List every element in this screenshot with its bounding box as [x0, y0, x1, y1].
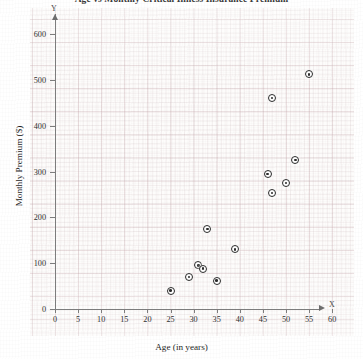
- y-tick: [50, 263, 55, 264]
- y-tick: [50, 126, 55, 127]
- x-tick-label: 15: [120, 315, 128, 324]
- y-axis-arrow-icon: [52, 14, 58, 20]
- x-tick: [240, 309, 241, 313]
- x-tick: [286, 309, 287, 313]
- x-axis-line: [55, 309, 320, 310]
- data-point: [213, 277, 221, 285]
- y-tick: [50, 172, 55, 173]
- x-tick-label: 30: [190, 315, 198, 324]
- x-tick: [101, 309, 102, 313]
- y-tick-label: 400: [22, 121, 46, 130]
- y-tick-label: 100: [22, 259, 46, 268]
- x-tick: [78, 309, 79, 313]
- x-tick-label: 50: [282, 315, 290, 324]
- x-tick: [55, 309, 56, 313]
- y-axis-title: Monthly Premium ($): [14, 91, 24, 241]
- y-tick-label: 200: [22, 213, 46, 222]
- x-tick-label: 5: [76, 315, 80, 324]
- x-tick-label: 35: [213, 315, 221, 324]
- x-axis-arrow-icon: [319, 305, 325, 311]
- y-axis-line: [55, 14, 56, 310]
- x-tick-label: 25: [166, 315, 174, 324]
- x-tick: [147, 309, 148, 313]
- x-tick: [217, 309, 218, 313]
- x-tick-label: 20: [143, 315, 151, 324]
- data-point: [167, 287, 175, 295]
- x-tick-label: 60: [328, 315, 336, 324]
- y-tick: [50, 217, 55, 218]
- x-axis-title: Age (in years): [0, 342, 363, 352]
- x-tick-label: 40: [236, 315, 244, 324]
- x-axis-letter: X: [329, 300, 335, 309]
- y-tick-label: 0: [22, 305, 46, 314]
- plot-area: X Y 051015202530354045505560 01002003004…: [0, 0, 363, 359]
- data-point: [199, 265, 207, 273]
- x-tick-label: 55: [305, 315, 313, 324]
- scatter-chart-figure: Age vs Monthly Critical Illness Insuranc…: [0, 0, 363, 359]
- x-tick: [124, 309, 125, 313]
- y-tick-label: 300: [22, 167, 46, 176]
- data-point: [185, 273, 193, 281]
- y-tick-label: 500: [22, 75, 46, 84]
- data-point: [264, 170, 272, 178]
- x-tick-label: 0: [53, 315, 57, 324]
- y-tick: [50, 34, 55, 35]
- y-tick: [50, 80, 55, 81]
- x-tick: [194, 309, 195, 313]
- x-tick: [263, 309, 264, 313]
- x-tick-label: 45: [259, 315, 267, 324]
- x-tick: [171, 309, 172, 313]
- x-tick: [332, 309, 333, 313]
- y-tick: [50, 309, 55, 310]
- y-tick-label: 600: [22, 30, 46, 39]
- x-tick: [309, 309, 310, 313]
- y-axis-letter: Y: [51, 4, 57, 13]
- x-tick-label: 10: [97, 315, 105, 324]
- data-point: [282, 179, 290, 187]
